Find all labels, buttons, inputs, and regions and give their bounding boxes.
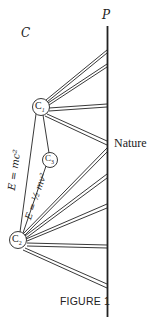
node-c3-sub: 3 (51, 159, 54, 165)
nature-label: Nature (114, 137, 147, 149)
c1-connections (45, 50, 107, 145)
node-c2-base: C (12, 233, 19, 244)
edge-c1-c3 (43, 115, 49, 153)
node-c2-label: C2 (12, 234, 22, 246)
region-label-c: C (21, 27, 30, 39)
node-c1-base: C (35, 100, 42, 111)
node-c3-label: C3 (45, 154, 54, 165)
node-c2-sub: 2 (19, 240, 22, 246)
diagram-canvas (0, 0, 160, 317)
node-c1-sub: 1 (42, 107, 45, 113)
axis-label-p: P (102, 9, 110, 21)
c2-connections (23, 148, 107, 288)
node-c1-label: C1 (35, 101, 45, 113)
figure-caption: FIGURE 1 (60, 296, 110, 307)
